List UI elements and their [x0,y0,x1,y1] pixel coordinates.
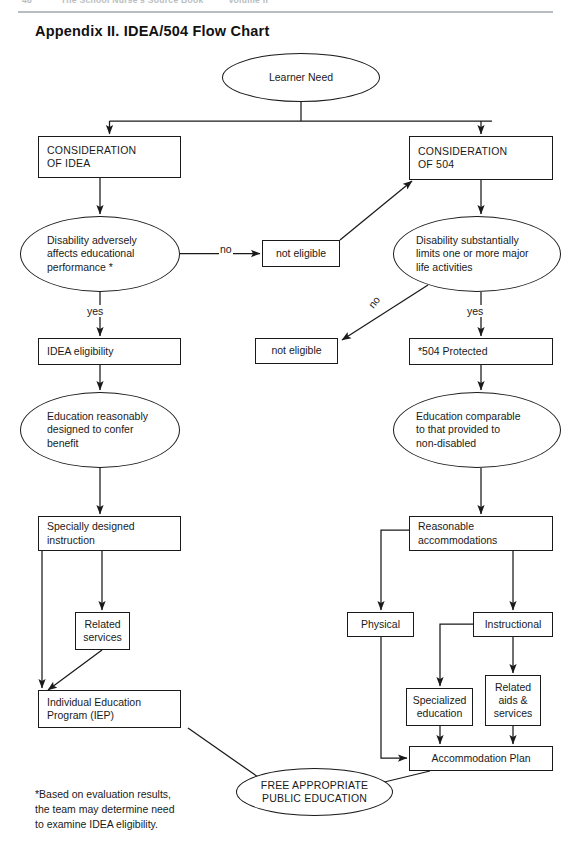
edge-label-no-idea: no [219,243,233,255]
node-instructional[interactable]: Instructional [473,612,553,637]
node-504-protected-label: *504 Protected [418,345,487,358]
node-related-services[interactable]: Related services [75,612,130,650]
edge-label-no-504: no [365,293,383,311]
node-not-eligible-idea[interactable]: not eligible [262,240,340,267]
edge-label-yes-idea: yes [86,305,104,317]
node-reasonable-accommodations[interactable]: Reasonable accommodations [409,516,553,551]
node-free-appropriate-public-education-label: FREE APPROPRIATE PUBLIC EDUCATION [261,779,368,805]
running-head-book-title: The School Nurse's Source Book [61,0,204,5]
node-reasonable-accommodations-label: Reasonable accommodations [418,520,497,546]
node-education-reasonably-designed-label: Education reasonably designed to confer … [47,410,148,449]
page-title: Appendix II. IDEA/504 Flow Chart [35,23,269,39]
node-504-protected[interactable]: *504 Protected [409,338,553,365]
node-physical[interactable]: Physical [347,612,414,637]
footnote: *Based on evaluation results, the team m… [35,787,175,833]
node-accommodation-plan-label: Accommodation Plan [431,752,530,765]
node-accommodation-plan[interactable]: Accommodation Plan [409,746,553,771]
node-not-eligible-idea-label: not eligible [276,247,326,260]
node-not-eligible-504[interactable]: not eligible [255,338,338,364]
running-head-page-number: 48 [22,0,32,5]
node-education-comparable-label: Education comparable to that provided to… [416,410,520,449]
node-not-eligible-504-label: not eligible [271,344,321,357]
node-idea-eligibility-label: IDEA eligibility [47,345,114,358]
running-head: 48 The School Nurse's Source Book Volume… [0,0,571,10]
node-specially-designed-instruction[interactable]: Specially designed instruction [38,516,181,551]
node-education-reasonably-designed[interactable]: Education reasonably designed to confer … [20,392,180,468]
flowchart-page: 48 The School Nurse's Source Book Volume… [0,0,571,853]
node-consideration-idea-label: CONSIDERATION OF IDEA [47,144,136,170]
edge-label-yes-504: yes [466,305,484,317]
node-individual-education-program-label: Individual Education Program (IEP) [47,696,141,722]
header-divider-rule [18,11,553,13]
node-idea-eligibility[interactable]: IDEA eligibility [38,338,181,365]
node-specially-designed-instruction-label: Specially designed instruction [47,520,135,546]
node-disability-substantially-limits[interactable]: Disability substantially limits one or m… [393,216,561,292]
node-education-comparable[interactable]: Education comparable to that provided to… [393,392,561,468]
node-consideration-504[interactable]: CONSIDERATION OF 504 [409,136,553,180]
node-learner-need[interactable]: Learner Need [222,53,380,102]
node-related-services-label: Related services [83,618,122,644]
node-individual-education-program[interactable]: Individual Education Program (IEP) [38,690,181,728]
node-instructional-label: Instructional [485,618,542,631]
node-disability-adversely-affects[interactable]: Disability adversely affects educational… [20,216,180,292]
node-disability-substantially-limits-label: Disability substantially limits one or m… [416,234,529,273]
node-consideration-idea[interactable]: CONSIDERATION OF IDEA [38,136,181,178]
node-specialized-education[interactable]: Specialized education [406,688,473,726]
node-learner-need-label: Learner Need [269,71,333,84]
running-head-volume: Volume II [228,0,268,5]
node-related-aids-and-services[interactable]: Related aids & services [485,675,541,726]
node-free-appropriate-public-education[interactable]: FREE APPROPRIATE PUBLIC EDUCATION [236,768,393,816]
node-related-aids-and-services-label: Related aids & services [494,681,533,720]
node-disability-adversely-affects-label: Disability adversely affects educational… [47,234,137,273]
node-consideration-504-label: CONSIDERATION OF 504 [418,145,507,171]
node-specialized-education-label: Specialized education [413,694,467,720]
node-physical-label: Physical [361,618,400,631]
